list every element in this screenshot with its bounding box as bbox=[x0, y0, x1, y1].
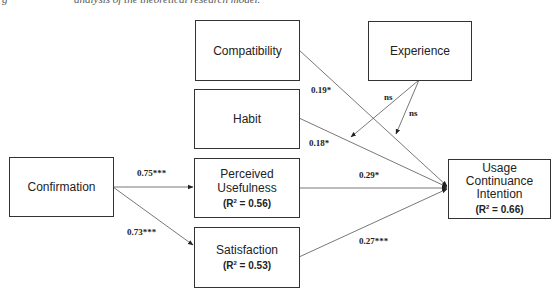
node-usage-continuance-intention: Usage Continuance Intention (R2 = 0.66) bbox=[448, 159, 551, 219]
node-pu-line1: Perceived bbox=[220, 167, 273, 181]
path-label-pu-uci: 0.29* bbox=[359, 170, 379, 180]
node-compatibility: Compatibility bbox=[195, 20, 300, 81]
path-label-confirmation-pu: 0.75*** bbox=[137, 168, 166, 178]
node-perceived-usefulness: Perceived Usefulness (R2 = 0.56) bbox=[194, 158, 300, 218]
r2-label: (R bbox=[223, 198, 234, 209]
node-confirmation-label: Confirmation bbox=[27, 180, 95, 194]
node-satisfaction-r2: (R2 = 0.53) bbox=[223, 257, 271, 272]
path-label-experience-habit: ns bbox=[409, 108, 418, 118]
node-uci-line3: Intention bbox=[476, 188, 522, 201]
r2-label: (R bbox=[223, 260, 234, 271]
node-experience: Experience bbox=[368, 21, 472, 81]
path-label-experience-compatibility: ns bbox=[384, 92, 393, 102]
path-label-confirmation-satisfaction: 0.73*** bbox=[127, 227, 156, 237]
arrow-satisfaction-uci bbox=[299, 189, 447, 257]
path-label-satisfaction-uci: 0.27*** bbox=[359, 236, 388, 246]
node-satisfaction-line1: Satisfaction bbox=[216, 243, 278, 257]
node-habit: Habit bbox=[194, 89, 300, 149]
node-uci-r2: (R2 = 0.66) bbox=[475, 201, 523, 216]
arrow-experience-compatibility-path bbox=[396, 80, 419, 134]
node-pu-line2: Usefulness bbox=[217, 181, 276, 195]
path-label-compatibility-uci: 0.19* bbox=[311, 85, 331, 95]
node-satisfaction: Satisfaction (R2 = 0.53) bbox=[194, 227, 300, 288]
path-label-habit-uci: 0.18* bbox=[309, 138, 329, 148]
r2-value: = 0.66) bbox=[489, 204, 523, 215]
node-experience-label: Experience bbox=[390, 44, 450, 58]
node-confirmation: Confirmation bbox=[9, 157, 114, 217]
node-compatibility-label: Compatibility bbox=[213, 44, 282, 58]
node-habit-label: Habit bbox=[233, 112, 261, 126]
r2-value: = 0.53) bbox=[237, 260, 271, 271]
r2-value: = 0.56) bbox=[237, 198, 271, 209]
node-pu-r2: (R2 = 0.56) bbox=[223, 195, 271, 210]
r2-label: (R bbox=[475, 204, 486, 215]
